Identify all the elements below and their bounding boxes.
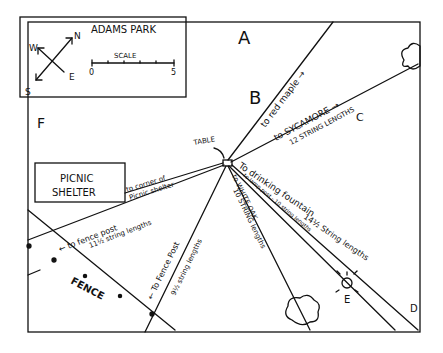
fence-label: FENCE bbox=[69, 275, 106, 302]
compass-s: S bbox=[25, 87, 31, 97]
shelter-label-1: PICNIC bbox=[60, 173, 93, 184]
white-oak-tree-icon bbox=[286, 295, 320, 324]
scale-label: SCALE bbox=[114, 52, 136, 60]
park-map: ADAMS PARK SCALE 0 5 N W E S A B C D E F… bbox=[0, 0, 443, 353]
point-a: A bbox=[238, 27, 251, 48]
shelter-label-2: SHELTER bbox=[52, 187, 96, 198]
point-f: F bbox=[37, 115, 45, 131]
scale-bar bbox=[92, 60, 174, 66]
compass-icon bbox=[36, 38, 72, 80]
point-c: C bbox=[356, 111, 364, 124]
compass-e: E bbox=[69, 72, 75, 82]
compass-n: N bbox=[74, 31, 81, 41]
distance-drinking-fountain: 14½ String lengths bbox=[302, 212, 371, 262]
table-label: TABLE bbox=[192, 135, 216, 147]
point-b: B bbox=[249, 87, 261, 108]
point-e: E bbox=[344, 294, 350, 305]
compass-w: W bbox=[29, 43, 38, 53]
lamp-post-icon bbox=[336, 271, 358, 292]
sycamore-tree-icon bbox=[402, 43, 420, 69]
scale-end: 5 bbox=[171, 68, 176, 77]
map-title: ADAMS PARK bbox=[91, 24, 157, 35]
point-d: D bbox=[410, 303, 418, 314]
table-pointer-arrow bbox=[214, 148, 224, 158]
scale-start: 0 bbox=[89, 68, 94, 77]
